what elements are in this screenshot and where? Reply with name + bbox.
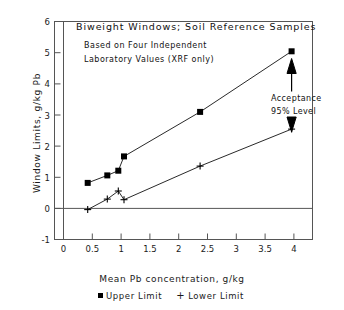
x-tick-label: 3.5 (252, 244, 278, 254)
y-tick-label: 6 (30, 17, 50, 27)
legend-label-upper: Upper Limit (106, 291, 162, 301)
chart-figure: 0 0.5 1 1.5 2 2.5 3 3.5 4 -1 0 1 2 3 4 5… (0, 0, 344, 310)
x-tick-label: 1 (108, 244, 134, 254)
chart-subtitle-line-1: Based on Four Independent (84, 41, 207, 50)
x-tick-label: 2.5 (195, 244, 221, 254)
chart-legend: Upper Limit+Lower Limit (0, 290, 344, 301)
annotation-level-label: 95% Level (271, 107, 316, 116)
y-axis-ticks (55, 22, 61, 240)
legend-label-lower: Lower Limit (188, 291, 244, 301)
annotation-arrow-up-icon (287, 59, 296, 92)
chart-subtitle-line-2: Laboratory Values (XRF only) (84, 55, 214, 64)
chart-title: Biweight Windows; Soil Reference Samples (76, 21, 316, 32)
x-tick-label: 2 (166, 244, 192, 254)
plus-marker-icon: + (176, 290, 185, 301)
x-tick-label: 0.5 (79, 244, 105, 254)
y-tick-label: -1 (30, 235, 50, 245)
series-upper-limit-line (88, 51, 292, 183)
x-tick-label: 1.5 (137, 244, 163, 254)
square-marker-icon (98, 293, 103, 298)
x-axis-title: Mean Pb concentration, g/kg (0, 274, 344, 284)
x-tick-label: 3 (223, 244, 249, 254)
x-tick-label: 0 (51, 244, 77, 254)
annotation-arrow-down-icon (287, 117, 296, 132)
x-axis-ticks (64, 234, 294, 240)
series-upper-limit-markers (85, 48, 295, 186)
y-axis-title: Window Limits, g/kg Pb (32, 33, 42, 233)
x-tick-label: 4 (281, 244, 307, 254)
annotation-acceptance-label: Acceptance (271, 94, 322, 103)
